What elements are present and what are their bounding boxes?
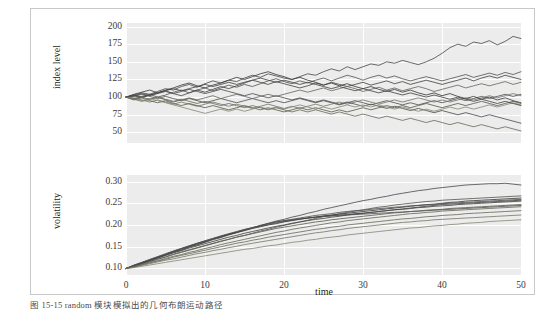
x-tick-label: 0 [114,280,138,290]
y-tick-label: 0.10 [105,263,122,273]
y-axis-label-volatility: volatility [51,183,63,239]
x-tick-label: 40 [430,280,454,290]
figure-caption: 图 15-15 random 模块模拟出的几何布朗运动路径 [30,299,390,311]
y-tick-label: 0.15 [105,242,122,252]
figure-container: 5075100125150175200 index level 0.100.15… [30,8,535,295]
series-line [126,211,521,269]
series-line [126,183,521,268]
series-line [126,215,521,268]
x-tick-label: 30 [351,280,375,290]
series-line [126,200,521,268]
y-tick-label: 0.20 [105,220,122,230]
series-line [126,220,521,269]
x-tick-label: 20 [272,280,296,290]
y-tick-label: 0.30 [105,177,122,187]
y-tick-label: 0.25 [105,198,122,208]
x-tick-label: 50 [509,280,533,290]
y-axis-ticks-volatility: 0.100.150.200.250.30 [86,9,122,139]
x-tick-label: 10 [193,280,217,290]
x-axis-label-time: time [300,286,348,297]
series-line [126,201,521,268]
